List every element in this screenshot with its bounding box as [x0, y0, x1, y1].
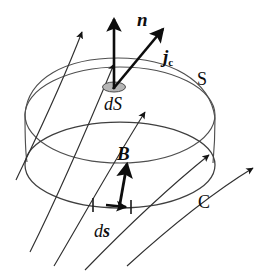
field-line-3	[54, 112, 145, 266]
magnetic-flux-diagram: n jc dS S B C ds	[0, 0, 280, 271]
diagram-canvas	[0, 0, 280, 271]
normal-vector-label: n	[137, 10, 148, 29]
boundary-curve-C	[25, 122, 215, 208]
current-density-subscript: c	[168, 56, 173, 68]
line-element-group	[93, 198, 131, 214]
current-density-arrow	[113, 29, 163, 89]
field-vector-arrow	[119, 164, 127, 209]
area-element-label: dS	[104, 95, 122, 113]
field-line-5	[127, 168, 253, 266]
line-element-label: ds	[94, 222, 110, 240]
line-element-vector-symbol: s	[103, 221, 110, 241]
surface-label: S	[197, 70, 207, 88]
line-element-arrow	[106, 205, 126, 207]
field-vector-label: B	[117, 144, 130, 163]
line-element-prefix: d	[94, 221, 103, 241]
current-density-label: jc	[163, 47, 173, 66]
boundary-curve-label: C	[198, 193, 210, 211]
